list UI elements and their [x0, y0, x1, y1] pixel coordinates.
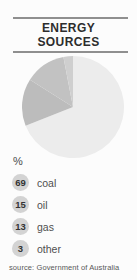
legend-item-gas: 13 gas — [12, 218, 61, 235]
legend: 69 coal 15 oil 13 gas 3 other — [12, 174, 61, 262]
chart-title: ENERGY SOURCES — [0, 21, 137, 49]
legend-value-badge-oil: 15 — [12, 196, 29, 213]
header-rule-bottom — [13, 51, 128, 53]
source-note: source: Government of Australia — [9, 263, 137, 272]
legend-value-badge-other: 3 — [12, 240, 29, 257]
legend-label-other: other — [37, 243, 61, 255]
legend-item-other: 3 other — [12, 240, 61, 257]
chart-title-line1: ENERGY — [0, 21, 137, 35]
chart-title-line2: SOURCES — [0, 35, 137, 49]
legend-item-coal: 69 coal — [12, 174, 61, 191]
pie-chart-svg — [22, 56, 124, 158]
energy-sources-chart-card: ENERGY SOURCES % 69 coal 15 oil 13 gas 3… — [0, 0, 137, 280]
legend-label-gas: gas — [37, 221, 54, 233]
header-rule-top — [13, 17, 128, 19]
legend-item-oil: 15 oil — [12, 196, 61, 213]
legend-value-badge-coal: 69 — [12, 174, 29, 191]
legend-value-badge-gas: 13 — [12, 218, 29, 235]
pie-chart — [22, 56, 124, 158]
legend-label-coal: coal — [37, 177, 56, 189]
legend-label-oil: oil — [37, 199, 48, 211]
percent-unit-label: % — [13, 155, 23, 167]
